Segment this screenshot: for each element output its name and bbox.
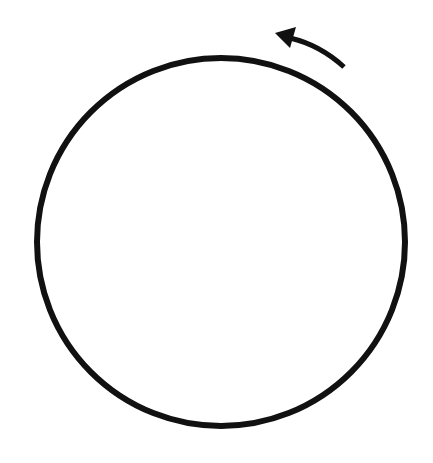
background [0, 0, 433, 463]
diagram-canvas [0, 0, 433, 463]
